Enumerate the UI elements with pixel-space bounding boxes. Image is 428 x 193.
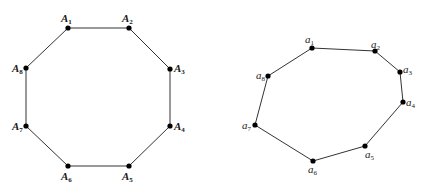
vertex-label-a1: a1 <box>305 33 315 47</box>
vertex-label-a3: a3 <box>403 63 413 77</box>
vertex-point-A1 <box>65 25 70 30</box>
diagram-canvas: A1A2A3A4A5A6A7A8 a1a2a3a4a5a6a7a8 <box>0 0 428 193</box>
vertex-point-a7 <box>252 122 257 127</box>
vertex-point-A8 <box>23 65 28 70</box>
vertex-label-a7: a7 <box>242 119 252 133</box>
vertex-label-A8: A8 <box>11 62 23 76</box>
vertex-label-a4: a4 <box>406 96 416 110</box>
vertex-label-A4: A4 <box>173 120 185 134</box>
vertex-point-A7 <box>23 123 28 128</box>
vertex-label-A2: A2 <box>121 12 133 26</box>
regular-octagon-edges <box>26 28 170 166</box>
vertex-point-a4 <box>400 99 405 104</box>
vertex-label-a8: a8 <box>256 69 266 83</box>
vertex-point-A5 <box>126 163 131 168</box>
vertex-label-a6: a6 <box>308 163 318 177</box>
vertex-label-a5: a5 <box>365 148 375 162</box>
irregular-octagon-edges <box>255 48 403 161</box>
vertex-label-A1: A1 <box>60 12 72 26</box>
vertex-label-A7: A7 <box>11 120 23 134</box>
vertex-label-A6: A6 <box>60 170 72 184</box>
vertex-label-A3: A3 <box>173 62 185 76</box>
vertex-point-a3 <box>397 69 402 74</box>
vertex-point-A2 <box>126 25 131 30</box>
vertex-point-a8 <box>265 73 270 78</box>
vertex-label-a2: a2 <box>371 38 381 52</box>
vertex-point-A6 <box>65 163 70 168</box>
vertex-label-A5: A5 <box>121 170 133 184</box>
regular-octagon-figure: A1A2A3A4A5A6A7A8 <box>11 12 185 184</box>
vertex-point-A4 <box>167 123 172 128</box>
vertex-point-A3 <box>167 66 172 71</box>
irregular-octagon-figure: a1a2a3a4a5a6a7a8 <box>242 33 416 177</box>
